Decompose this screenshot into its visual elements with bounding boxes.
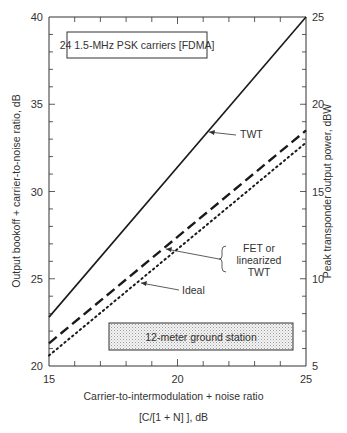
annotation-twt: TWT [209,128,263,140]
y-left-tick-label: 20 [31,360,43,372]
y-right-tick-label: 25 [312,11,324,23]
y-left-tick-label: 40 [31,11,43,23]
x-axis-title: Carrier-to-intermodulation + noise ratio [0,390,347,402]
y-right-tick-label: 5 [312,360,318,372]
x-axis-subtitle: [C/[1 + N] ], dB [0,411,347,423]
plot-frame [49,17,306,366]
x-tick-label: 20 [171,373,183,385]
svg-text:Ideal: Ideal [182,284,205,296]
svg-text:linearized: linearized [237,254,282,266]
svg-text:TWT: TWT [248,266,271,278]
annotation-ideal: Ideal [141,281,205,296]
inset-label: 24 1.5-MHz PSK carriers [FDMA] [60,39,215,51]
arrow-icon [209,130,215,135]
ground-station-label: 12-meter ground station [145,331,257,343]
y-left-tick-label: 25 [31,273,43,285]
brace-icon [219,246,226,272]
arrow-icon [141,281,147,286]
y-left-tick-label: 30 [31,186,43,198]
series-dashed-line [49,130,306,343]
annotation-fet: FET or linearized TWT [166,242,282,278]
ground-station-box: 12-meter ground station [109,323,293,350]
svg-text:FET or: FET or [243,242,275,254]
series-lines [49,17,306,356]
inset-label-box: 24 1.5-MHz PSK carriers [FDMA] [60,32,215,58]
y-right-axis-title: Peak transponder output power, dBW [321,104,333,279]
y-left-tick-label: 35 [31,98,43,110]
x-tick-label: 15 [43,373,55,385]
axis-ticks [49,17,306,366]
chart: 1520252025303540510152025 24 1.5-MHz PSK… [0,0,347,433]
y-left-axis-title: Output bookoff + carrier-to-noise ratio,… [10,94,22,287]
arrow-icon [166,247,172,252]
svg-text:TWT: TWT [240,128,263,140]
x-tick-label: 25 [300,373,312,385]
